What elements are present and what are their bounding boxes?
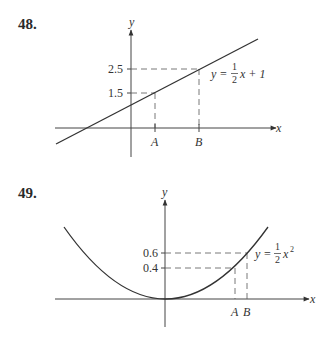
y-tick-0-6: 0.6 — [143, 246, 158, 260]
y-tick-0-4: 0.4 — [143, 261, 158, 275]
y-axis-label: y — [128, 15, 135, 29]
svg-text:2: 2 — [275, 254, 280, 265]
svg-text:1: 1 — [232, 61, 237, 72]
svg-text:y =: y = — [210, 67, 227, 81]
equation-label-48: y = 1 2 x + 1 — [210, 61, 265, 85]
svg-text:y =: y = — [254, 247, 271, 261]
x-tick-b: B — [195, 135, 203, 149]
x-tick-a: A — [230, 305, 239, 319]
y-axis-label: y — [161, 185, 168, 199]
svg-text:x + 1: x + 1 — [239, 67, 265, 81]
svg-text:1: 1 — [275, 241, 280, 252]
x-tick-a: A — [150, 135, 159, 149]
graph-48: y x 2.5 1.5 A B y = 1 2 x + 1 — [55, 15, 282, 157]
equation-label-49: y = 1 2 x 2 — [254, 241, 294, 265]
y-tick-1-5: 1.5 — [108, 86, 123, 100]
svg-text:x: x — [282, 247, 289, 261]
x-tick-b: B — [243, 305, 251, 319]
figures: y x 2.5 1.5 A B y = 1 2 x + 1 y x — [0, 0, 334, 337]
x-axis-label: x — [309, 292, 316, 306]
x-axis-label: x — [275, 121, 282, 135]
y-tick-2-5: 2.5 — [108, 62, 123, 76]
svg-text:2: 2 — [232, 74, 237, 85]
graph-49: y x 0.6 0.4 A B y = 1 2 x 2 — [55, 185, 316, 327]
parabola-curve — [64, 227, 268, 299]
svg-text:2: 2 — [290, 245, 294, 254]
